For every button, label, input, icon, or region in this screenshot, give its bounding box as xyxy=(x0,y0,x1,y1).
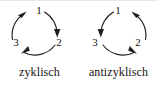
node-label-2: 2 xyxy=(53,37,65,48)
cycle-diagram-clockwise: 1 2 3 zyklisch xyxy=(0,1,79,86)
node-label-3: 3 xyxy=(89,37,101,48)
caption-antizyklisch: antizyklisch xyxy=(79,65,158,79)
cycle-diagram-figure: 1 2 3 zyklisch 1 2 3 xyxy=(0,0,158,86)
node-label-1: 1 xyxy=(33,5,45,16)
node-label-1: 1 xyxy=(112,5,124,16)
node-label-2: 2 xyxy=(132,37,144,48)
cycle-diagram-counterclockwise: 1 2 3 antizyklisch xyxy=(79,1,158,86)
caption-zyklisch: zyklisch xyxy=(0,65,79,79)
node-label-3: 3 xyxy=(10,37,22,48)
